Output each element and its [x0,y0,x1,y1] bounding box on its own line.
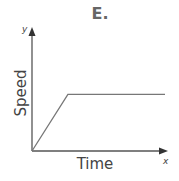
x-axis [32,148,168,155]
y-axis [29,27,36,151]
chart-plot [0,0,179,181]
speed-line [32,94,165,151]
